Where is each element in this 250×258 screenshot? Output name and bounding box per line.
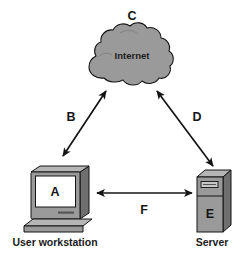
link-f: F xyxy=(97,193,192,217)
link-label-b: B xyxy=(66,110,75,124)
node-label-e: E xyxy=(206,207,214,221)
workstation-caption: User workstation xyxy=(12,236,97,248)
link-b: B xyxy=(63,91,106,156)
link-d: D xyxy=(157,91,213,166)
diagram-canvas: Internet C A User workstat xyxy=(0,0,250,258)
node-label-c: C xyxy=(127,9,136,23)
network-diagram: Internet C A User workstat xyxy=(0,0,250,258)
link-label-d: D xyxy=(192,110,201,124)
server-caption: Server xyxy=(196,236,229,248)
desktop-computer-icon xyxy=(24,166,92,232)
link-label-f: F xyxy=(140,203,148,217)
link-d-arrow xyxy=(157,91,213,166)
node-internet: Internet C xyxy=(89,9,173,85)
node-label-a: A xyxy=(50,185,59,199)
server-tower-icon xyxy=(197,170,231,232)
node-server: E Server xyxy=(196,170,231,248)
node-workstation: A User workstation xyxy=(12,166,97,248)
cloud-label: Internet xyxy=(115,50,151,61)
